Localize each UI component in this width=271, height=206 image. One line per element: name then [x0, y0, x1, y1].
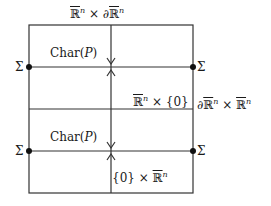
sigma-lower-left: Σ: [15, 144, 23, 158]
r-bar: ℝ: [109, 7, 119, 21]
char-text: Char(: [50, 46, 84, 60]
r-bar: ℝ: [236, 98, 246, 112]
sigma-upper-right: Σ: [197, 60, 205, 74]
p-var: P: [84, 130, 92, 144]
bottom-boundary-label: {0} × ℝn: [112, 168, 168, 185]
p-var: P: [84, 46, 92, 60]
mid-boundary-left-label: ℝn × {0}: [133, 92, 189, 109]
zero-times: {0} ×: [112, 171, 153, 185]
sigma-upper-left: Σ: [15, 60, 23, 74]
exp-n: n: [246, 97, 251, 106]
r-bar: ℝ: [133, 95, 143, 109]
r-bar: ℝ: [203, 98, 213, 112]
char-p-lower-label: Char(P): [50, 130, 97, 144]
times: ×: [218, 98, 236, 112]
exp-n: n: [163, 170, 168, 179]
sigma-point: [190, 64, 196, 70]
sigma-lower-right: Σ: [197, 144, 205, 158]
times-zero: × {0}: [148, 95, 189, 109]
paren: ): [93, 130, 98, 144]
sigma-point: [190, 148, 196, 154]
times-partial: × ∂: [85, 7, 109, 21]
top-boundary-label: ℝn × ∂ℝn: [70, 4, 124, 21]
sigma-point: [26, 148, 32, 154]
r-bar: ℝ: [153, 171, 163, 185]
exp-n: n: [119, 6, 124, 15]
sigma-point: [26, 64, 32, 70]
paren: ): [93, 46, 98, 60]
char-p-upper-label: Char(P): [50, 46, 97, 60]
r-bar: ℝ: [70, 7, 80, 21]
mid-boundary-right-label: ∂ℝn × ℝn: [197, 95, 251, 112]
char-text: Char(: [50, 130, 84, 144]
